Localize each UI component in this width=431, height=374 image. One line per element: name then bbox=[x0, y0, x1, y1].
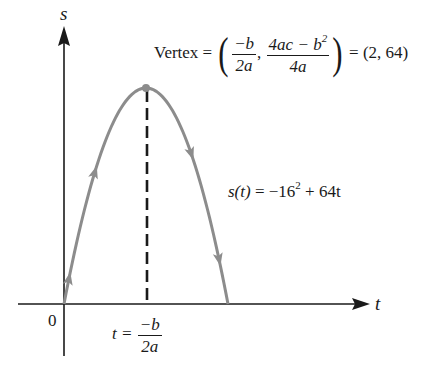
vertex-x-numerator: −b bbox=[232, 35, 256, 55]
vertex-y-numerator-exponent: 2 bbox=[322, 32, 328, 44]
s-axis-arrowhead bbox=[58, 26, 70, 46]
function-lhs: s(t) bbox=[228, 182, 251, 201]
left-paren: ( bbox=[219, 32, 229, 76]
function-label: s(t) = −162 + 64t bbox=[228, 180, 341, 200]
vertex-formula-label: Vertex = (−b2a, 4ac − b24a) = (2, 64) bbox=[154, 32, 408, 76]
origin-label: 0 bbox=[48, 312, 57, 329]
function-rhs: = −16 bbox=[255, 182, 295, 201]
vertex-x-denominator: 2a bbox=[234, 55, 255, 74]
s-axis-label: s bbox=[60, 4, 67, 23]
vertex-x-fraction: −b2a bbox=[232, 35, 256, 74]
vertex-prefix: Vertex = bbox=[154, 43, 212, 62]
curve-direction-arrow bbox=[88, 164, 101, 179]
vertex-y-denominator: 4a bbox=[287, 56, 308, 75]
vertex-y-fraction: 4ac − b24a bbox=[267, 33, 330, 75]
function-rest: + 64t bbox=[305, 182, 341, 201]
vertex-y-numerator: 4ac − b bbox=[269, 35, 322, 54]
symmetry-denominator: 2a bbox=[139, 336, 160, 355]
symmetry-lhs: t = bbox=[112, 324, 132, 343]
vertex-point bbox=[142, 84, 150, 92]
function-exponent: 2 bbox=[295, 179, 301, 191]
axis-of-symmetry-label: t = −b2a bbox=[112, 316, 163, 355]
curve-direction-arrow bbox=[184, 146, 198, 162]
symmetry-fraction: −b2a bbox=[138, 316, 162, 355]
t-axis-label: t bbox=[375, 294, 380, 313]
vertex-result: = (2, 64) bbox=[349, 43, 408, 62]
symmetry-numerator: −b bbox=[138, 316, 162, 336]
right-paren: ) bbox=[332, 32, 342, 76]
